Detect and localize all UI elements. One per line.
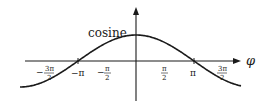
x-axis-arrow-icon	[233, 58, 241, 64]
svg-text:−: −	[97, 67, 105, 77]
svg-text:−: −	[36, 67, 44, 77]
svg-text:2: 2	[162, 74, 166, 82]
curve-label: cosine	[88, 26, 127, 40]
tick-label-pi: π	[190, 68, 196, 78]
y-axis-arrow-icon	[133, 7, 139, 15]
x-axis	[25, 58, 241, 64]
cosine-diagram: cosine φ − 3π 2 −π − π 2 π 2 π 3π 2	[0, 0, 266, 107]
x-axis-label: φ	[246, 53, 256, 68]
tick-label-neg-pi-2: − π 2	[97, 65, 111, 82]
tick-label-3pi-2: 3π 2	[217, 65, 227, 82]
svg-text:π: π	[105, 65, 110, 73]
svg-text:3π: 3π	[218, 65, 227, 73]
tick-label-neg-pi: −π	[71, 68, 85, 78]
svg-text:2: 2	[220, 74, 224, 82]
svg-text:2: 2	[105, 74, 109, 82]
svg-text:2: 2	[47, 74, 51, 82]
tick-label-neg-3pi-2: − 3π 2	[36, 65, 54, 82]
svg-text:π: π	[162, 65, 167, 73]
tick-label-pi-2: π 2	[161, 65, 168, 82]
y-axis	[133, 7, 139, 101]
svg-text:3π: 3π	[45, 65, 54, 73]
